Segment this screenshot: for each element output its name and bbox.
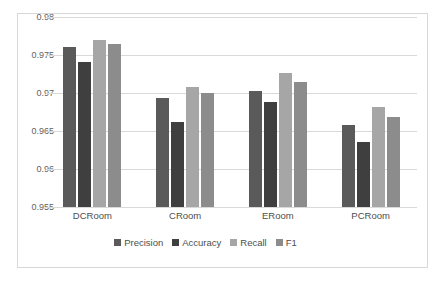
legend-label: Precision [124, 238, 163, 248]
legend-item-f1[interactable]: F1 [276, 238, 297, 248]
legend-swatch-icon [114, 239, 121, 246]
legend-swatch-icon [230, 239, 237, 246]
legend-label: Recall [240, 238, 266, 248]
bar-recall-croom [186, 87, 199, 207]
legend-item-recall[interactable]: Recall [230, 238, 266, 248]
x-axis-group-label-croom: CRoom [169, 211, 201, 221]
legend-label: F1 [286, 238, 297, 248]
bar-precision-dcroom [63, 47, 76, 207]
bar-accuracy-pcroom [357, 142, 370, 207]
bar-recall-eroom [279, 73, 292, 207]
legend-item-accuracy[interactable]: Accuracy [172, 238, 221, 248]
bar-accuracy-croom [171, 122, 184, 207]
legend-swatch-icon [172, 239, 179, 246]
plot-area [46, 17, 417, 207]
bar-f1-eroom [294, 82, 307, 207]
bar-precision-croom [156, 98, 169, 207]
bar-accuracy-eroom [264, 102, 277, 207]
bar-f1-croom [201, 93, 214, 207]
bar-chart: 0.9550.960.9650.970.9750.98 DCRoomCRoomE… [0, 0, 443, 282]
x-axis-group-label-eroom: ERoom [262, 211, 294, 221]
gridline [46, 17, 417, 18]
bar-f1-dcroom [108, 44, 121, 207]
legend: PrecisionAccuracyRecallF1 [0, 238, 411, 248]
legend-label: Accuracy [182, 238, 221, 248]
bar-f1-pcroom [387, 117, 400, 207]
x-axis: DCRoomCRoomERoomPCRoom [46, 211, 417, 225]
legend-swatch-icon [276, 239, 283, 246]
legend-item-precision[interactable]: Precision [114, 238, 163, 248]
x-axis-group-label-pcroom: PCRoom [351, 211, 390, 221]
bar-precision-pcroom [342, 125, 355, 207]
bar-recall-pcroom [372, 107, 385, 207]
bar-precision-eroom [249, 91, 262, 207]
bar-recall-dcroom [93, 40, 106, 207]
x-axis-group-label-dcroom: DCRoom [73, 211, 112, 221]
bar-accuracy-dcroom [78, 62, 91, 207]
gridline [46, 207, 417, 208]
